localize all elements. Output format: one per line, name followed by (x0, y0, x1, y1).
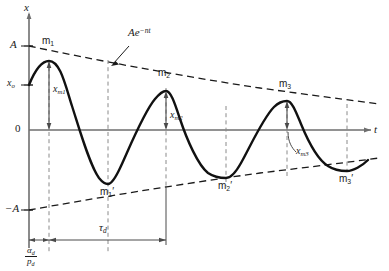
xm3-sub: m3 (300, 150, 308, 157)
xm3-leader-line (288, 132, 296, 152)
phase-dimension-group (29, 238, 49, 242)
x-axis-label: t (374, 124, 377, 135)
envelope-base-text: Ae (128, 26, 140, 38)
minus-a-text: −A (5, 202, 19, 214)
xm1-sub: m1 (57, 88, 65, 95)
tick-label-zero: 0 (15, 123, 21, 134)
m3-sub: 3 (287, 83, 291, 90)
trough-label-m1-prime: m1′ (100, 187, 114, 199)
axes-group (27, 12, 371, 248)
peak-label-m1: m1 (42, 36, 54, 48)
m2p-prime: ′ (230, 180, 232, 191)
envelope-exponent-text: −nt (140, 26, 151, 35)
y-axis-arrowhead (27, 12, 32, 19)
m3p-prime: ′ (351, 173, 353, 184)
xm2-sub: m2 (174, 114, 182, 121)
value-leader-lines (21, 46, 33, 210)
phase-arrowhead-left (29, 238, 35, 242)
trough-label-m2-prime: m2′ (218, 181, 232, 193)
period-arrowhead-left (49, 238, 56, 243)
amplitude-label-xm1: xm1 (53, 84, 66, 96)
initial-displacement-label: xo (7, 78, 15, 90)
envelope-label: Ae−nt (128, 27, 150, 38)
tick-label-minus-A: −A (5, 203, 19, 214)
envelope-pointer-arrowhead (111, 61, 119, 66)
envelope-pointer-group (111, 46, 129, 66)
amplitude-arrowhead-xm3-down (285, 123, 290, 130)
tick-label-A: A (10, 39, 17, 50)
phase-arrowhead-right (43, 238, 49, 242)
amplitude-label-xm2: xm2 (170, 110, 183, 122)
phase-denominator: pd (25, 257, 37, 267)
tau-sub: d (103, 226, 107, 235)
x-axis-arrowhead (364, 128, 371, 133)
m1p-prime: ′ (112, 186, 114, 197)
p-sub: d (32, 261, 35, 267)
trough-label-m3-prime: m3′ (339, 174, 353, 186)
period-label-tau-d: τd (99, 222, 107, 235)
amplitude-arrowhead-xm1-down (47, 123, 52, 130)
amplitude-label-xm3: xm3 (296, 146, 309, 158)
alpha-sub: d (32, 250, 35, 256)
damped-vibration-chart (0, 0, 389, 271)
envelope-group (29, 46, 379, 210)
x-initial-sub: o (11, 82, 14, 89)
amplitude-arrowhead-xm2-down (164, 123, 169, 130)
phase-label-alpha-over-p: αd pd (25, 246, 37, 267)
period-arrowhead-right (159, 238, 166, 243)
m1-sub: 1 (50, 40, 54, 47)
m2-sub: 2 (166, 72, 170, 79)
y-axis-label: x (24, 2, 29, 13)
peak-label-m3: m3 (279, 79, 291, 91)
peak-label-m2: m2 (158, 68, 170, 80)
upper-envelope-curve (29, 46, 379, 104)
